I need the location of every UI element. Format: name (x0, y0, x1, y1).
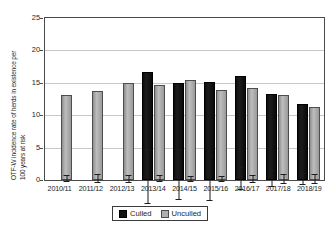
y-tick-mark (40, 83, 43, 84)
y-tick-label: 10 (18, 110, 40, 119)
bar-group (293, 18, 324, 180)
error-bar (221, 176, 222, 182)
bar-culled[interactable] (173, 83, 184, 180)
y-axis-title-line1: OTF-W incidence rate of herds in existen… (10, 51, 18, 180)
bar-unculled[interactable] (92, 91, 103, 180)
bar-slot (266, 18, 277, 180)
bar-unculled[interactable] (185, 80, 196, 180)
plot-area (44, 17, 325, 181)
error-cap-bottom (188, 181, 194, 182)
error-cap-bottom (250, 182, 256, 183)
bar-unculled[interactable] (154, 85, 165, 180)
error-bar (128, 175, 129, 183)
error-cap-top (219, 176, 225, 177)
bar-culled[interactable] (142, 72, 153, 180)
error-cap-top (250, 175, 256, 176)
x-tick-label: 2014/15 (169, 184, 200, 198)
error-bar (314, 174, 315, 183)
legend-swatch-unculled (161, 210, 169, 218)
error-cap-top (126, 175, 132, 176)
bar-unculled[interactable] (247, 88, 258, 180)
bar-culled[interactable] (204, 82, 215, 180)
bar-slot (154, 18, 165, 180)
error-bar (283, 174, 284, 184)
y-tick-mark (40, 18, 43, 19)
legend-item-culled[interactable]: Culled (119, 209, 152, 218)
bar-group (107, 18, 138, 180)
error-cap-top (269, 170, 275, 171)
bar-slot (235, 18, 246, 180)
error-cap-bottom (207, 200, 213, 201)
error-bar (66, 175, 67, 182)
y-tick-mark (40, 180, 43, 181)
y-tick-mark (40, 50, 43, 51)
chart-legend: CulledUnculled (112, 206, 208, 221)
error-cap-bottom (145, 203, 151, 204)
error-cap-bottom (95, 182, 101, 183)
error-cap-top (176, 149, 182, 150)
x-tick-label: 2013/14 (138, 184, 169, 198)
bar-unculled[interactable] (309, 107, 320, 180)
x-tick-label: 2010/11 (44, 184, 75, 198)
bar-culled[interactable] (266, 94, 277, 180)
bar-slot (247, 18, 258, 180)
bar-groups (45, 18, 324, 180)
bar-group (262, 18, 293, 180)
y-tick-label: 25 (18, 13, 40, 22)
x-tick-label: 2018/19 (294, 184, 325, 198)
bar-slot (80, 18, 91, 180)
error-cap-bottom (157, 181, 163, 182)
error-bar (190, 176, 191, 182)
chart-figure: OTF-W incidence rate of herds in existen… (0, 0, 331, 233)
error-cap-top (157, 175, 163, 176)
x-tick-label: 2015/16 (200, 184, 231, 198)
error-cap-bottom (219, 181, 225, 182)
x-tick-label: 2012/13 (106, 184, 137, 198)
error-cap-bottom (64, 181, 70, 182)
bar-group (45, 18, 76, 180)
y-tick-label: 15 (18, 78, 40, 87)
bar-culled[interactable] (297, 104, 308, 180)
error-cap-top (312, 174, 318, 175)
legend-item-unculled[interactable]: Unculled (161, 209, 202, 218)
error-bar (302, 173, 303, 185)
error-bar (159, 175, 160, 182)
x-axis-labels: 2010/112011/122012/132013/142014/152015/… (44, 184, 325, 198)
bar-slot (173, 18, 184, 180)
y-axis-ticks: 0510152025 (18, 17, 40, 181)
x-tick-label: 2011/12 (75, 184, 106, 198)
bar-slot (92, 18, 103, 180)
legend-swatch-culled (119, 210, 127, 218)
bar-slot (123, 18, 134, 180)
y-tick-label: 20 (18, 45, 40, 54)
bar-group (231, 18, 262, 180)
error-cap-top (300, 173, 306, 174)
bar-unculled[interactable] (61, 95, 72, 180)
bar-slot (111, 18, 122, 180)
bar-unculled[interactable] (278, 95, 289, 180)
legend-label: Unculled (172, 209, 202, 218)
bar-slot (49, 18, 60, 180)
x-tick-label: 2016/17 (231, 184, 262, 198)
bar-slot (61, 18, 72, 180)
error-cap-top (145, 149, 151, 150)
bar-slot (185, 18, 196, 180)
error-cap-top (95, 174, 101, 175)
error-cap-top (238, 167, 244, 168)
bar-slot (204, 18, 215, 180)
bar-slot (142, 18, 153, 180)
error-cap-top (188, 176, 194, 177)
bar-group (138, 18, 169, 180)
error-cap-top (281, 174, 287, 175)
y-tick-mark (40, 115, 43, 116)
y-tick-label: 5 (18, 143, 40, 152)
bar-group (169, 18, 200, 180)
bar-culled[interactable] (235, 76, 246, 180)
y-tick-label: 0 (18, 175, 40, 184)
y-tick-mark (40, 148, 43, 149)
bar-unculled[interactable] (216, 90, 227, 180)
x-tick-label: 2017/18 (263, 184, 294, 198)
bar-slot (297, 18, 308, 180)
bar-unculled[interactable] (123, 83, 134, 180)
legend-label: Culled (130, 209, 152, 218)
